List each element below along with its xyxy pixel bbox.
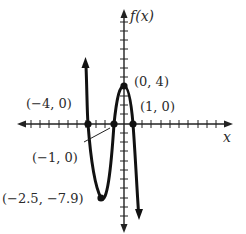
- y-axis: [120, 14, 128, 228]
- x-axis: [22, 120, 228, 128]
- point-min: [97, 194, 104, 201]
- label-1-0: (1, 0): [140, 99, 175, 114]
- curve-right-arrow-icon: [135, 209, 143, 220]
- curve-left-arrow-icon: [82, 57, 90, 68]
- y-axis-bottom-arrow-icon: [121, 224, 128, 233]
- label-neg4-0: (−4, 0): [26, 96, 72, 111]
- polynomial-graph: (−4, 0) (−1, 0) (1, 0) (0, 4) (−2.5, −7.…: [0, 0, 246, 234]
- y-axis-label: f(x): [129, 8, 154, 24]
- y-axis-top-arrow-icon: [121, 9, 128, 18]
- label-neg1-0: (−1, 0): [32, 150, 78, 165]
- x-axis-left-arrow-icon: [17, 121, 26, 128]
- function-curve: [86, 66, 139, 212]
- label-0-4: (0, 4): [134, 74, 169, 89]
- x-axis-label: x: [223, 129, 231, 145]
- point-neg4-0: [84, 120, 91, 127]
- label-min: (−2.5, −7.9): [2, 191, 84, 206]
- point-1-0: [129, 120, 136, 127]
- point-neg1-0: [110, 120, 117, 127]
- x-axis-right-arrow-icon: [224, 121, 233, 128]
- point-0-4: [120, 82, 127, 89]
